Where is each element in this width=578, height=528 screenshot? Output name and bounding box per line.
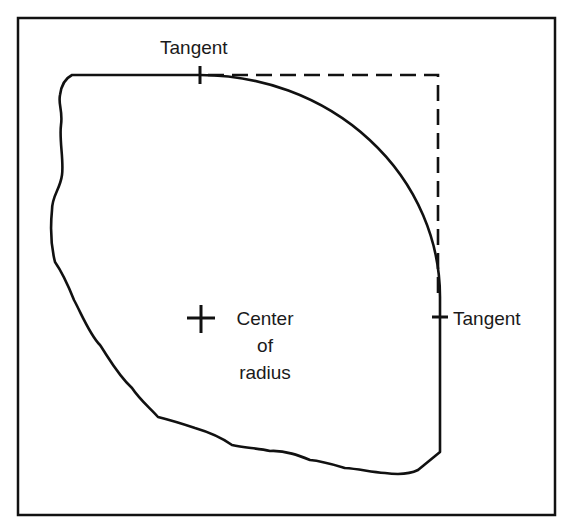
center-label-line3: radius — [225, 359, 305, 386]
right-tangent-label: Tangent — [453, 309, 521, 328]
center-label-line1: Center — [225, 305, 305, 332]
outer-frame — [18, 18, 555, 515]
center-of-radius-label: Center of radius — [225, 305, 305, 386]
top-tangent-label: Tangent — [160, 38, 228, 57]
center-label-line2: of — [225, 332, 305, 359]
sharp-corner-dashed-line — [208, 75, 438, 295]
part-outline — [51, 75, 440, 474]
center-cross-icon — [187, 305, 215, 333]
radius-diagram — [0, 0, 578, 528]
